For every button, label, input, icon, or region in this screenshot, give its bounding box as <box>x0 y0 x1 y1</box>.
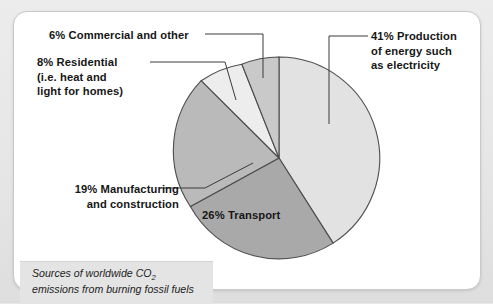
caption-text-part-1: Sources of worldwide CO <box>32 267 152 279</box>
pie-label-commercial: 6% Commercial and other <box>49 28 189 43</box>
caption-subscript-2: 2 <box>152 273 156 282</box>
pie-label-residential: 8% Residential (i.e. heat and light for … <box>37 55 123 99</box>
pie-label-transport: 26% Transport <box>202 208 280 223</box>
caption-line-2: emissions from burning fossil fuels <box>32 283 194 295</box>
pie-label-manufacturing: 19% Manufacturing and construction <box>31 182 179 211</box>
figure-caption: Sources of worldwide CO2 emissions from … <box>32 266 242 297</box>
caption-line-1: Sources of worldwide CO2 <box>32 267 156 279</box>
pie-label-production: 41% Production of energy such as electri… <box>371 29 475 73</box>
